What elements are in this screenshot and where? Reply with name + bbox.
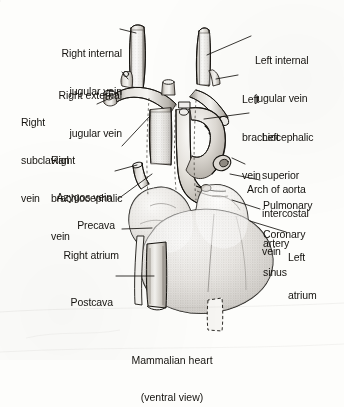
label-line: Left [262, 131, 344, 144]
label-line: Right [51, 154, 171, 167]
label-line: Right atrium [26, 249, 119, 262]
figure-caption: Mammalian heart (ventral view) [0, 329, 344, 407]
label-left-atrium: Left atrium [288, 226, 344, 314]
label-right-atrium: Right atrium [26, 224, 119, 274]
caption-subtitle: (ventral view) [0, 391, 344, 403]
label-line: Left [242, 93, 344, 106]
label-line: Postcava [32, 296, 113, 309]
label-line: Left [288, 251, 344, 264]
caption-title: Mammalian heart [0, 354, 344, 366]
label-line: Right [21, 116, 131, 129]
label-line: Right internal [10, 47, 122, 60]
label-line: Left internal [255, 54, 343, 67]
label-line: atrium [288, 289, 344, 302]
descending-aorta-stub [207, 298, 223, 331]
label-postcava: Postcava [32, 271, 113, 321]
